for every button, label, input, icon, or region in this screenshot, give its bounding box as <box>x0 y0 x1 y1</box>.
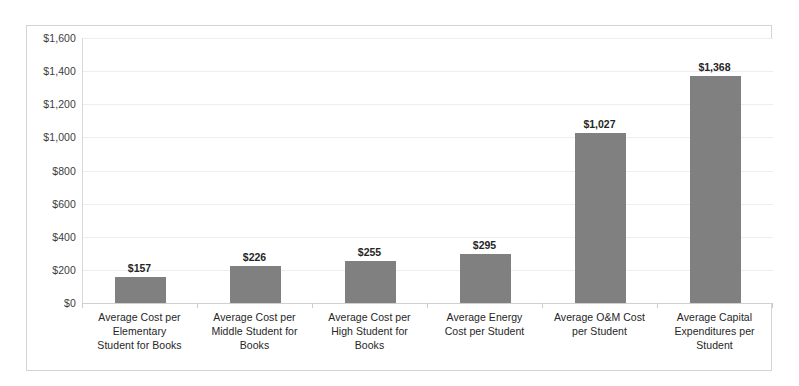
bar <box>460 254 511 303</box>
y-axis-tick-label: $200 <box>24 265 76 276</box>
x-axis-category-label-line: Books <box>197 338 312 352</box>
x-axis-tick <box>82 303 83 308</box>
x-axis-category-label-line: per Student <box>542 324 657 338</box>
gridline <box>83 204 773 205</box>
x-axis-category-label: Average Cost perMiddle Student forBooks <box>197 310 312 353</box>
y-axis-tick-label: $800 <box>24 166 76 177</box>
bar <box>115 277 166 303</box>
x-axis-category-label-line: Middle Student for <box>197 324 312 338</box>
x-axis-category-label-line: Average Energy <box>427 310 542 324</box>
x-axis-category-label: Average Cost perHigh Student forBooks <box>312 310 427 353</box>
gridline <box>83 237 773 238</box>
bar <box>690 76 741 303</box>
bar <box>345 261 396 303</box>
y-axis-tick-label: $1,000 <box>24 132 76 143</box>
x-axis-category-label-line: Average Cost per <box>312 310 427 324</box>
x-axis-category-label-line: Average Cost per <box>82 310 197 324</box>
gridline <box>83 38 773 39</box>
x-axis-tick <box>312 303 313 308</box>
x-axis-category-label-line: Student <box>657 338 772 352</box>
x-axis-category-label-line: Student for Books <box>82 338 197 352</box>
x-axis-category-label: Average CapitalExpenditures perStudent <box>657 310 772 353</box>
x-axis-category-label-line: Books <box>312 338 427 352</box>
x-axis-category-label: Average EnergyCost per Student <box>427 310 542 338</box>
x-axis-category-labels: Average Cost perElementaryStudent for Bo… <box>82 310 772 368</box>
bar <box>230 266 281 303</box>
y-axis-tick-label: $600 <box>24 199 76 210</box>
y-axis: $1,600$1,400$1,200$1,000$800$600$400$200… <box>27 26 80 370</box>
y-axis-tick-label: $400 <box>24 232 76 243</box>
y-axis-tick-label: $1,200 <box>24 99 76 110</box>
x-axis-tick <box>772 303 773 308</box>
bar-value-label: $1,368 <box>675 62 755 73</box>
bar-value-label: $295 <box>445 240 525 251</box>
bar-chart: $1,600$1,400$1,200$1,000$800$600$400$200… <box>0 0 799 386</box>
x-axis-tick <box>197 303 198 308</box>
gridline <box>83 137 773 138</box>
gridline <box>83 104 773 105</box>
gridline <box>83 71 773 72</box>
y-axis-tick-label: $1,400 <box>24 66 76 77</box>
gridline <box>83 171 773 172</box>
x-axis-category-label: Average O&M Costper Student <box>542 310 657 338</box>
x-axis-category-label-line: High Student for <box>312 324 427 338</box>
bar-value-label: $157 <box>100 263 180 274</box>
gridline <box>83 270 773 271</box>
y-axis-tick-label: $1,600 <box>24 33 76 44</box>
x-axis-category-label-line: Expenditures per <box>657 324 772 338</box>
x-axis-category-label-line: Cost per Student <box>427 324 542 338</box>
plot-area <box>82 38 772 303</box>
x-axis-category-label: Average Cost perElementaryStudent for Bo… <box>82 310 197 353</box>
x-axis-line <box>83 303 773 304</box>
bar-value-label: $226 <box>215 252 295 263</box>
x-axis-tick <box>657 303 658 308</box>
x-axis-category-label-line: Average Capital <box>657 310 772 324</box>
x-axis-tick <box>427 303 428 308</box>
bar <box>575 133 626 303</box>
x-axis-category-label-line: Average Cost per <box>197 310 312 324</box>
x-axis-category-label-line: Average O&M Cost <box>542 310 657 324</box>
bar-value-label: $1,027 <box>560 119 640 130</box>
y-axis-tick-label: $0 <box>24 298 76 309</box>
bar-value-label: $255 <box>330 247 410 258</box>
x-axis-tick <box>542 303 543 308</box>
x-axis-category-label-line: Elementary <box>82 324 197 338</box>
